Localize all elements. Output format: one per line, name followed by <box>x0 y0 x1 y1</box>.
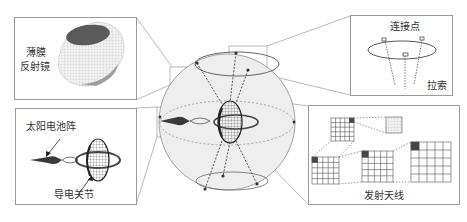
label-connection-point: 连接点 <box>390 21 420 33</box>
label-solar-array: 太阳电池阵 <box>26 121 76 133</box>
label-film-reflector-line1: 薄膜 <box>26 47 46 59</box>
label-transmit-antenna: 发射天线 <box>364 190 404 202</box>
label-tether: 拉索 <box>427 80 447 92</box>
label-conductive-joint: 导电关节 <box>54 189 94 201</box>
label-film-reflector-line2: 反射镜 <box>20 61 50 73</box>
sphere-structure <box>159 51 296 190</box>
diagram-canvas: 薄膜 反射镜 连接点 拉索 太阳电池阵 导电关节 发射天线 <box>0 0 467 222</box>
